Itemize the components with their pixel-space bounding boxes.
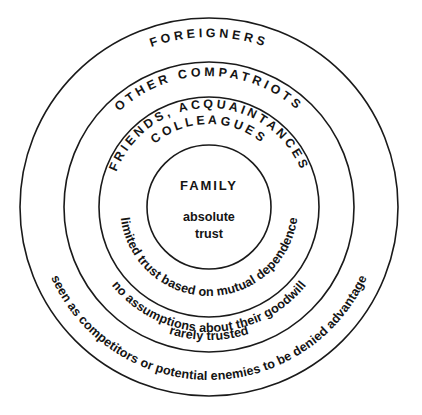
concentric-trust-circles-svg: FOREIGNERS OTHER COMPATRIOTS FRIENDS, AC… [0, 0, 422, 415]
trust-circles-diagram: FOREIGNERS OTHER COMPATRIOTS FRIENDS, AC… [0, 0, 422, 415]
label-foreigners: FOREIGNERS [148, 26, 270, 50]
label-family-subtitle-line1: absolute [183, 210, 235, 224]
label-family-subtitle-line2: trust [195, 227, 224, 241]
label-friends-acquaintances: FRIENDS, ACQUAINTANCES [106, 97, 312, 173]
ring-family-core [147, 145, 271, 269]
label-family-title: FAMILY [180, 178, 238, 193]
